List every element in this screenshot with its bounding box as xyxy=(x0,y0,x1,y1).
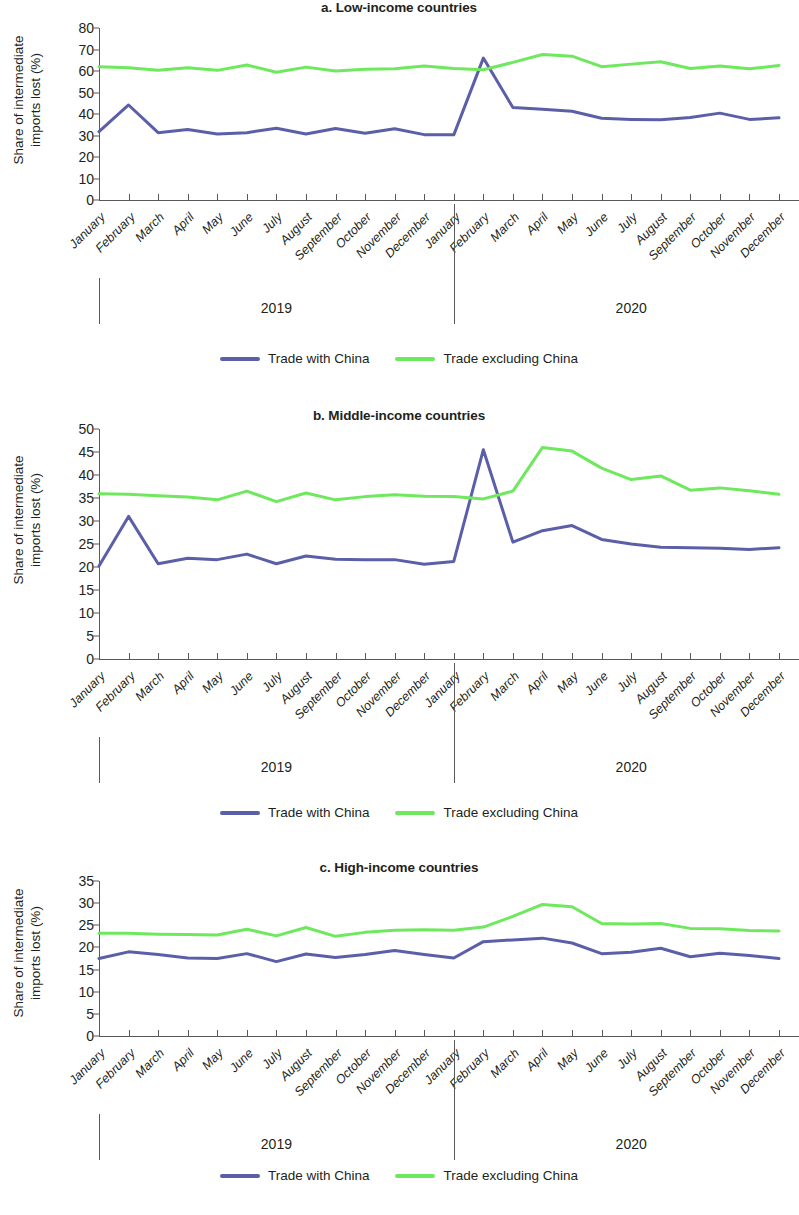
y-axis-tick-label: 20 xyxy=(78,149,94,165)
y-axis-tick-label: 50 xyxy=(78,421,94,437)
year-separator-line xyxy=(99,278,100,324)
y-axis-label-c: Share of intermediate imports lost (%) xyxy=(10,858,44,1048)
y-axis-tick-label: 10 xyxy=(78,984,94,1000)
year-axis-label: 2020 xyxy=(616,300,647,316)
x-axis-tick-mark xyxy=(779,194,780,200)
plot-area-a: 01020304050607080JanuaryFebruaryMarchApr… xyxy=(99,28,779,200)
legend-b: Trade with ChinaTrade excluding China xyxy=(0,806,798,820)
legend-line-swatch xyxy=(220,1174,260,1178)
series-line xyxy=(99,54,779,72)
x-axis-line xyxy=(99,200,799,201)
y-axis-tick-label: 40 xyxy=(78,467,94,483)
y-axis-tick-label: 20 xyxy=(78,559,94,575)
legend-line-swatch xyxy=(395,357,435,361)
y-axis-label-line2: imports lost (%) xyxy=(27,858,44,1048)
legend-label: Trade excluding China xyxy=(443,1169,578,1183)
legend-label: Trade with China xyxy=(268,352,370,366)
legend-item[interactable]: Trade with China xyxy=(220,352,370,366)
legend-c: Trade with ChinaTrade excluding China xyxy=(0,1169,798,1183)
x-axis-tick-mark xyxy=(779,1030,780,1036)
y-axis-label-line2: imports lost (%) xyxy=(27,405,44,635)
series-line xyxy=(99,904,779,936)
legend-item[interactable]: Trade excluding China xyxy=(395,1169,578,1183)
series-canvas xyxy=(99,881,779,1036)
y-axis-label-line1: Share of intermediate xyxy=(10,858,27,1048)
year-axis-label: 2020 xyxy=(616,1136,647,1152)
y-axis-tick-label: 10 xyxy=(78,605,94,621)
legend-line-swatch xyxy=(220,357,260,361)
series-line xyxy=(99,447,779,501)
x-axis-tick-mark xyxy=(779,653,780,659)
y-axis-label-b: Share of intermediate imports lost (%) xyxy=(10,405,44,635)
y-axis-tick-label: 20 xyxy=(78,939,94,955)
legend-label: Trade with China xyxy=(268,1169,370,1183)
legend-line-swatch xyxy=(220,811,260,815)
legend-a: Trade with ChinaTrade excluding China xyxy=(0,352,798,366)
y-axis-tick-label: 35 xyxy=(78,873,94,889)
series-canvas xyxy=(99,429,779,659)
series-canvas xyxy=(99,28,779,200)
legend-label: Trade excluding China xyxy=(443,352,578,366)
year-axis-label: 2020 xyxy=(616,759,647,775)
y-axis-tick-label: 50 xyxy=(78,85,94,101)
y-axis-tick-label: 60 xyxy=(78,63,94,79)
year-separator-line xyxy=(454,1040,455,1160)
legend-item[interactable]: Trade excluding China xyxy=(395,352,578,366)
y-axis-label-line2: imports lost (%) xyxy=(27,0,44,200)
y-axis-tick-label: 35 xyxy=(78,490,94,506)
chart-title-b: b. Middle-income countries xyxy=(0,408,798,423)
year-separator-line xyxy=(99,737,100,783)
year-axis-label: 2019 xyxy=(261,759,292,775)
y-axis-tick-label: 15 xyxy=(78,962,94,978)
y-axis-tick-label: 25 xyxy=(78,917,94,933)
chart-title-a: a. Low-income countries xyxy=(0,0,798,15)
y-axis-tick-label: 10 xyxy=(78,171,94,187)
y-axis-tick-label: 30 xyxy=(78,128,94,144)
y-axis-tick-label: 25 xyxy=(78,536,94,552)
legend-label: Trade with China xyxy=(268,806,370,820)
legend-item[interactable]: Trade with China xyxy=(220,1169,370,1183)
y-axis-tick-label: 70 xyxy=(78,42,94,58)
legend-item[interactable]: Trade excluding China xyxy=(395,806,578,820)
legend-line-swatch xyxy=(395,1174,435,1178)
year-separator-line xyxy=(454,204,455,324)
chart-panel-low-income: a. Low-income countries Share of interme… xyxy=(0,0,798,400)
series-line xyxy=(99,450,779,566)
legend-line-swatch xyxy=(395,811,435,815)
year-separator-line xyxy=(99,1114,100,1160)
y-axis-label-a: Share of intermediate imports lost (%) xyxy=(10,0,44,200)
y-axis-tick-label: 80 xyxy=(78,20,94,36)
year-separator-line xyxy=(454,663,455,783)
series-line xyxy=(99,938,779,961)
y-axis-tick-label: 15 xyxy=(78,582,94,598)
y-axis-tick-label: 30 xyxy=(78,895,94,911)
y-axis-tick-label: 30 xyxy=(78,513,94,529)
chart-panel-high-income: c. High-income countries Share of interm… xyxy=(0,852,798,1215)
chart-title-c: c. High-income countries xyxy=(0,860,798,875)
year-axis-label: 2019 xyxy=(261,1136,292,1152)
x-axis-line xyxy=(99,1036,799,1037)
y-axis-label-line1: Share of intermediate xyxy=(10,405,27,635)
year-axis-label: 2019 xyxy=(261,300,292,316)
legend-item[interactable]: Trade with China xyxy=(220,806,370,820)
plot-area-b: 05101520253035404550JanuaryFebruaryMarch… xyxy=(99,429,779,659)
legend-label: Trade excluding China xyxy=(443,806,578,820)
y-axis-label-line1: Share of intermediate xyxy=(10,0,27,200)
plot-area-c: 05101520253035JanuaryFebruaryMarchAprilM… xyxy=(99,881,779,1036)
y-axis-tick-label: 45 xyxy=(78,444,94,460)
x-axis-line xyxy=(99,659,799,660)
chart-panel-middle-income: b. Middle-income countries Share of inte… xyxy=(0,400,798,852)
y-axis-tick-label: 40 xyxy=(78,106,94,122)
